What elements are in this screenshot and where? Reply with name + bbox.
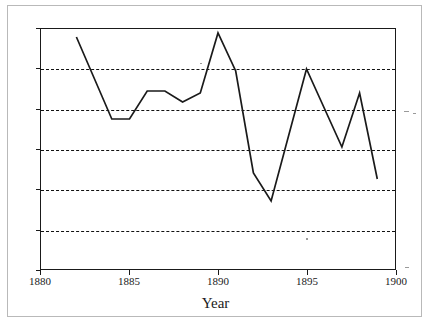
plot-area (40, 28, 396, 270)
scan-speck (200, 63, 202, 64)
scan-speck (413, 113, 416, 114)
scan-speck (405, 267, 409, 268)
scan-speck (306, 238, 308, 240)
x-tick-label-3: 1895 (296, 276, 318, 287)
series-1-line (76, 33, 377, 201)
x-tick-label-1: 1885 (118, 276, 140, 287)
series-line-layer (41, 29, 395, 269)
x-tick-label-4: 1900 (385, 276, 407, 287)
chart-figure: 0.00.20.40.60.81.01.2 188018851890189519… (0, 0, 431, 329)
x-axis-title: Year (0, 295, 431, 312)
x-tick-mark-4 (396, 270, 397, 275)
x-tick-label-0: 1880 (29, 276, 51, 287)
x-tick-mark-0 (40, 270, 41, 275)
x-tick-mark-1 (129, 270, 130, 275)
x-tick-mark-2 (218, 270, 219, 275)
x-tick-label-2: 1890 (207, 276, 229, 287)
scan-speck (404, 111, 409, 112)
x-tick-mark-3 (307, 270, 308, 275)
